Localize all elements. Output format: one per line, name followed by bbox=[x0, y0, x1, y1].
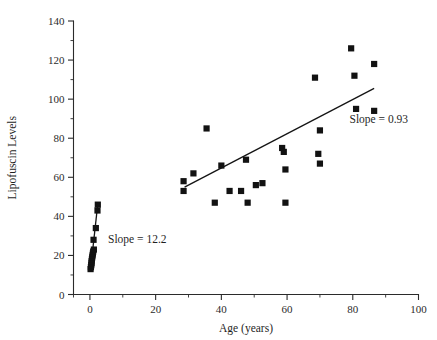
x-axis-title: Age (years) bbox=[219, 322, 273, 335]
data-point-marker bbox=[90, 237, 96, 243]
data-point-marker bbox=[317, 161, 323, 167]
data-point-marker bbox=[91, 246, 97, 252]
data-point-marker bbox=[180, 188, 186, 194]
data-point-marker bbox=[95, 202, 101, 208]
slope-annotation: Slope = 0.93 bbox=[350, 113, 409, 126]
data-point-marker bbox=[243, 157, 249, 163]
x-tick-label: 20 bbox=[150, 303, 162, 315]
y-tick-label: 20 bbox=[54, 249, 66, 261]
data-point-marker bbox=[212, 200, 218, 206]
adult-fit-line bbox=[185, 88, 375, 187]
data-point-marker bbox=[190, 170, 196, 176]
y-tick-label: 40 bbox=[54, 210, 66, 222]
scatter-chart-figure: 020406080100120140020406080100 Slope = 1… bbox=[0, 0, 437, 340]
data-point-marker bbox=[94, 207, 100, 213]
data-point-marker bbox=[315, 151, 321, 157]
data-point-marker bbox=[203, 125, 209, 131]
data-point-marker bbox=[282, 200, 288, 206]
data-point-marker bbox=[180, 178, 186, 184]
plot-canvas: 020406080100120140020406080100 Slope = 1… bbox=[0, 0, 437, 340]
data-point-marker bbox=[317, 127, 323, 133]
x-tick-label: 80 bbox=[347, 303, 359, 315]
data-point-marker bbox=[348, 45, 354, 51]
slope-annotation: Slope = 12.2 bbox=[108, 233, 167, 246]
y-tick-label: 0 bbox=[59, 289, 65, 301]
data-point-marker bbox=[281, 149, 287, 155]
data-point-marker bbox=[226, 188, 232, 194]
data-point-marker bbox=[259, 180, 265, 186]
data-point-marker bbox=[253, 182, 259, 188]
axis-tick-labels: 020406080100120140020406080100 bbox=[48, 15, 427, 315]
y-tick-label: 60 bbox=[54, 171, 66, 183]
y-tick-label: 140 bbox=[48, 15, 65, 27]
y-tick-label: 120 bbox=[48, 54, 65, 66]
y-axis-title: Lipofuscin Levels bbox=[6, 116, 19, 200]
data-point-marker bbox=[351, 73, 357, 79]
y-tick-label: 100 bbox=[48, 93, 65, 105]
y-tick-label: 80 bbox=[54, 132, 66, 144]
data-point-marker bbox=[312, 75, 318, 81]
data-point-marker bbox=[245, 200, 251, 206]
data-point-marker bbox=[353, 106, 359, 112]
x-tick-label: 60 bbox=[282, 303, 294, 315]
x-tick-label: 0 bbox=[87, 303, 93, 315]
data-point-marker bbox=[238, 188, 244, 194]
data-point-marker bbox=[93, 225, 99, 231]
x-tick-label: 40 bbox=[216, 303, 228, 315]
data-point-marker bbox=[218, 162, 224, 168]
data-point-marker bbox=[371, 61, 377, 67]
x-tick-label: 100 bbox=[410, 303, 427, 315]
data-point-marker bbox=[282, 166, 288, 172]
slope-annotations: Slope = 12.2Slope = 0.93 bbox=[108, 113, 408, 246]
